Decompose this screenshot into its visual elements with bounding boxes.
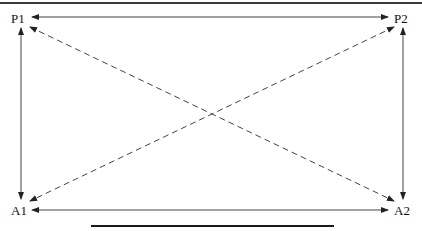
node-label-a1: A1	[11, 204, 27, 217]
node-label-p1: P1	[11, 12, 25, 25]
relationship-diagram	[0, 0, 422, 231]
node-label-a2: A2	[394, 204, 410, 217]
bottom-rule-divider	[91, 225, 334, 227]
node-label-p2: P2	[394, 12, 408, 25]
